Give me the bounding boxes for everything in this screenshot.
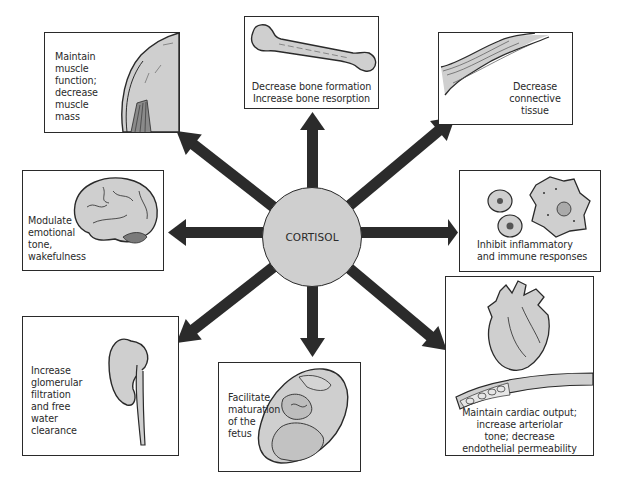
effect-box-brain: Modulate emotional tone, wakefulness [22,170,164,271]
arrow-down-to-fetus [300,284,325,357]
arrow-up-to-bone [300,112,325,190]
brain-label: Modulate emotional tone, wakefulness [28,215,86,263]
bone-label: Decrease bone formation Increase bone re… [245,81,378,105]
arrow-right-to-immune [358,219,458,246]
effect-box-muscle: Maintain muscle function; decrease muscl… [44,32,180,133]
immune-label: Inhibit inflammatory and immune response… [477,239,587,263]
cardiac-label: Maintain cardiac output; increase arteri… [446,407,593,455]
arrow-upper-left-to-muscle [168,121,284,220]
effect-box-bone: Decrease bone formation Increase bone re… [244,16,379,109]
effect-box-connective: Decrease connective tissue [438,32,573,125]
effect-box-cardiac: Maintain cardiac output; increase arteri… [445,276,594,456]
muscle-label: Maintain muscle function; decrease muscl… [55,51,98,123]
cortisol-hub: CORTISOL [262,187,362,287]
fetus-label: Facilitate maturation of the fetus [228,392,280,440]
effect-box-kidney: Increase glomerular filtration and free … [22,316,179,456]
connective-label: Decrease connective tissue [499,81,571,117]
arrow-lower-right-to-cardiac [338,256,455,360]
effect-box-fetus: Facilitate maturation of the fetus [218,362,361,472]
cortisol-label: CORTISOL [285,231,338,243]
arrow-lower-left-to-kidney [168,254,284,353]
kidney-label: Increase glomerular filtration and free … [31,365,82,437]
arrow-left-to-brain [168,219,266,246]
effect-box-immune: Inhibit inflammatory and immune response… [459,170,601,272]
